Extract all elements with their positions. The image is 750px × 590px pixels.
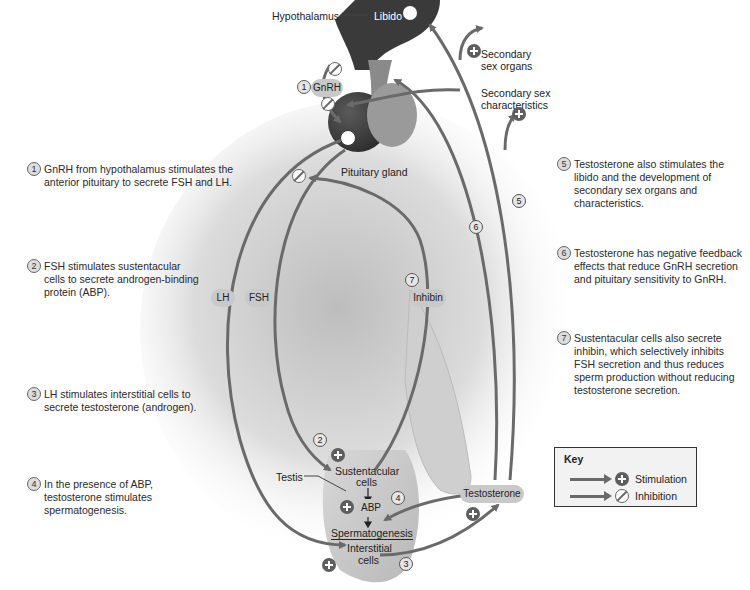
- key-inhibition-label: Inhibition: [635, 490, 677, 502]
- step-marker-4: 4: [27, 477, 41, 491]
- abp-stimulation-icon: [340, 500, 354, 514]
- note-3-text: LH stimulates interstitial cells to secr…: [44, 388, 196, 413]
- gnrh-pill: GnRH: [311, 79, 343, 97]
- hypothalamus-label: Hypothalamus: [272, 10, 339, 22]
- note-6-text: Testosterone has negative feedback effec…: [574, 247, 742, 285]
- note-1: 1 GnRH from hypothalamus stimulates the …: [44, 163, 244, 189]
- interstitial-label-l1: Interstitial: [347, 542, 392, 554]
- step-marker-6-diagram: 6: [469, 220, 483, 234]
- step-marker-1-diagram: 1: [297, 80, 311, 94]
- secondary-sex-organs-label-l2: sex organs: [481, 60, 532, 72]
- hypothalamus-inhibition-icon: [328, 62, 342, 76]
- key-stimulation-label: Stimulation: [635, 473, 687, 485]
- secondary-organs-stimulation-icon: [467, 44, 481, 58]
- fsh-inhibition-icon: [292, 169, 306, 183]
- note-4-text: In the presence of ABP, testosterone sti…: [44, 478, 153, 516]
- step-marker-6: 6: [557, 246, 571, 260]
- note-1-text: GnRH from hypothalamus stimulates the an…: [44, 163, 233, 188]
- step-marker-4-diagram: 4: [391, 491, 405, 505]
- testis-label: Testis: [276, 471, 303, 483]
- step-marker-2-diagram: 2: [313, 433, 327, 447]
- note-4: 4 In the presence of ABP, testosterone s…: [44, 478, 164, 517]
- gnrh-label: GnRH: [313, 82, 341, 93]
- stimulation-arrow-icon: [570, 478, 606, 481]
- sustentacular-label-l2: cells: [356, 476, 377, 488]
- inhibin-label: Inhibin: [413, 292, 442, 303]
- pituitary-gland-label: Pituitary gland: [341, 166, 408, 178]
- libido-stimulation-icon: [403, 6, 417, 20]
- interstitial-stimulation-icon: [322, 558, 336, 572]
- note-5: 5 Testosterone also stimulates the libid…: [574, 158, 744, 210]
- note-3: 3 LH stimulates interstitial cells to se…: [44, 388, 204, 414]
- note-6: 6 Testosterone has negative feedback eff…: [574, 247, 744, 286]
- secondary-characteristics-branch: [505, 115, 515, 150]
- key-title: Key: [564, 453, 583, 465]
- lh-label: LH: [217, 292, 230, 303]
- sustentacular-stimulation-icon: [331, 448, 345, 462]
- step-marker-7-diagram: 7: [405, 273, 419, 287]
- lh-pill: LH: [211, 289, 235, 307]
- abp-pill: ABP: [357, 499, 385, 517]
- inhibition-arrow-icon: [570, 495, 606, 498]
- secondary-sex-characteristics-label-l1: Secondary sex: [481, 87, 550, 99]
- key-row-inhibition: Inhibition: [555, 488, 696, 504]
- pituitary-stimulation-icon: [340, 130, 356, 146]
- step-marker-5: 5: [557, 157, 571, 171]
- stimulation-plus-icon: [615, 472, 629, 486]
- testosterone-stimulation-icon: [466, 507, 480, 521]
- note-2: 2 FSH stimulates sustentacular cells to …: [44, 260, 204, 299]
- fsh-label: FSH: [249, 292, 269, 303]
- key-row-stimulation: Stimulation: [555, 471, 696, 487]
- secondary-sex-organs-label-l1: Secondary: [481, 48, 531, 60]
- testosterone-pill: Testosterone: [460, 485, 524, 503]
- step-marker-3-diagram: 3: [399, 557, 413, 571]
- fsh-pill: FSH: [245, 289, 273, 307]
- interstitial-label-l2: cells: [358, 554, 379, 566]
- note-5-text: Testosterone also stimulates the libido …: [574, 158, 724, 209]
- step-marker-5-diagram: 5: [512, 194, 526, 208]
- inhibition-slash-icon: [615, 489, 629, 503]
- inhibin-pill: Inhibin: [410, 289, 446, 307]
- libido-label: Libido: [374, 10, 402, 22]
- secondary-characteristics-stimulation-icon: [512, 107, 526, 121]
- step-marker-1: 1: [27, 162, 41, 176]
- gnrh-inhibition-icon: [321, 97, 335, 111]
- testosterone-label: Testosterone: [463, 488, 520, 499]
- legend-key: Key Stimulation Inhibition: [554, 447, 697, 507]
- step-marker-7: 7: [557, 331, 571, 345]
- abp-label: ABP: [361, 502, 381, 513]
- step-marker-2: 2: [27, 259, 41, 273]
- note-7: 7 Sustentacular cells also secrete inhib…: [574, 332, 739, 397]
- spermatogenesis-label: Spermatogenesis: [331, 527, 413, 540]
- note-7-text: Sustentacular cells also secrete inhibin…: [574, 332, 735, 396]
- step-marker-3: 3: [27, 387, 41, 401]
- note-2-text: FSH stimulates sustentacular cells to se…: [44, 260, 199, 298]
